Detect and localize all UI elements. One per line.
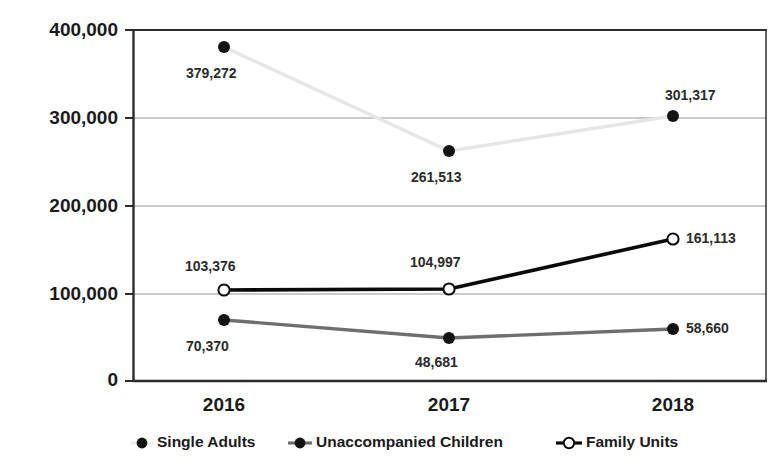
data-label-family-units-2016: 103,376 (185, 258, 236, 274)
y-tick-label-100000: 100,000 (49, 283, 118, 304)
data-label-single-adults-2016: 379,272 (186, 65, 237, 81)
data-point-single-adults-2018 (667, 110, 679, 122)
legend-marker-family-units-icon (564, 438, 574, 448)
data-point-unaccompanied-children-2016 (218, 314, 230, 326)
data-label-unaccompanied-children-2016: 70,370 (186, 338, 229, 354)
legend-marker-unaccompanied-children-icon (295, 438, 306, 449)
y-tick-label-400000: 400,000 (49, 19, 118, 40)
x-tick-label-2017: 2017 (428, 394, 470, 415)
y-axis-tick-labels: 400,000 300,000 200,000 100,000 0 (49, 19, 118, 390)
data-label-unaccompanied-children-2017: 48,681 (415, 354, 458, 370)
x-tick-label-2018: 2018 (652, 394, 694, 415)
x-tick-label-2016: 2016 (203, 394, 245, 415)
y-tick-label-300000: 300,000 (49, 107, 118, 128)
data-point-family-units-2016 (218, 284, 229, 295)
data-label-family-units-2017: 104,997 (410, 254, 461, 270)
y-tick-label-200000: 200,000 (49, 195, 118, 216)
data-point-family-units-2018 (667, 233, 678, 244)
legend-label-single-adults: Single Adults (157, 433, 255, 450)
legend-item-single-adults[interactable]: Single Adults (131, 433, 255, 450)
legend-marker-single-adults-icon (137, 438, 148, 449)
data-point-single-adults-2017 (443, 145, 455, 157)
data-label-family-units-2018: 161,113 (686, 230, 736, 246)
data-label-single-adults-2018: 301,317 (665, 87, 716, 103)
y-tick-label-0: 0 (107, 369, 118, 390)
legend-item-family-units[interactable]: Family Units (556, 433, 678, 450)
legend-item-unaccompanied-children[interactable]: Unaccompanied Children (288, 433, 503, 450)
data-label-single-adults-2017: 261,513 (411, 169, 462, 185)
chart-legend: Single Adults Unaccompanied Children Fam… (131, 433, 678, 450)
data-point-family-units-2017 (443, 283, 454, 294)
x-axis-tick-labels: 2016 2017 2018 (203, 394, 694, 415)
data-point-unaccompanied-children-2017 (443, 332, 455, 344)
data-label-unaccompanied-children-2018: 58,660 (686, 320, 729, 336)
legend-label-unaccompanied-children: Unaccompanied Children (316, 433, 503, 450)
data-point-unaccompanied-children-2018 (667, 323, 679, 335)
line-chart: 400,000 300,000 200,000 100,000 0 (0, 0, 784, 466)
chart-canvas: 400,000 300,000 200,000 100,000 0 (0, 0, 784, 466)
legend-label-family-units: Family Units (586, 433, 678, 450)
data-point-single-adults-2016 (218, 41, 230, 53)
